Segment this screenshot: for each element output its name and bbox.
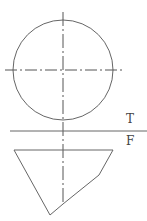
- front-view: [14, 150, 113, 215]
- top-view: [5, 12, 122, 205]
- orthographic-projection-drawing: T F: [0, 0, 147, 221]
- front-view-outline: [14, 150, 113, 215]
- top-view-label: T: [126, 112, 134, 126]
- front-view-label: F: [126, 134, 134, 148]
